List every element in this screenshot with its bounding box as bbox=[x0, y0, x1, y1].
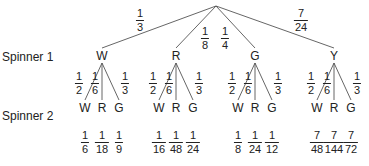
spinner2-prob-g-g: 13 bbox=[274, 71, 282, 96]
denominator: 9 bbox=[115, 144, 123, 155]
branch-line bbox=[102, 63, 119, 100]
numerator: 1 bbox=[244, 71, 252, 82]
joint-prob-y-r: 7144 bbox=[324, 130, 344, 155]
numerator: 1 bbox=[121, 71, 129, 82]
numerator: 7 bbox=[297, 8, 305, 19]
numerator: 1 bbox=[228, 71, 236, 82]
denominator: 3 bbox=[274, 85, 282, 96]
denominator: 6 bbox=[165, 85, 173, 96]
denominator: 2 bbox=[149, 85, 157, 96]
spinner2-prob-r-g: 13 bbox=[195, 71, 203, 96]
spinner2-prob-g-w: 12 bbox=[228, 71, 236, 96]
denominator: 8 bbox=[234, 144, 242, 155]
numerator: 1 bbox=[234, 130, 242, 141]
joint-prob-g-r: 124 bbox=[248, 130, 262, 155]
spinner2-node-y-w: W bbox=[311, 102, 322, 114]
denominator: 3 bbox=[353, 85, 361, 96]
branch-line bbox=[102, 6, 216, 48]
spinner2-node-r-g: G bbox=[188, 102, 197, 114]
numerator: 1 bbox=[251, 130, 259, 141]
numerator: 1 bbox=[189, 130, 197, 141]
numerator: 1 bbox=[172, 130, 180, 141]
denominator: 6 bbox=[323, 85, 331, 96]
denominator: 24 bbox=[186, 144, 200, 155]
numerator: 1 bbox=[274, 71, 282, 82]
spinner2-prob-w-r: 16 bbox=[91, 71, 99, 96]
branch-line bbox=[176, 6, 216, 48]
spinner2-node-w-w: W bbox=[79, 102, 90, 114]
numerator: 1 bbox=[221, 26, 229, 37]
spinner2-prob-w-w: 12 bbox=[75, 71, 83, 96]
spinner2-node-y-r: R bbox=[330, 102, 339, 114]
denominator: 48 bbox=[169, 144, 183, 155]
spinner2-node-r-r: R bbox=[172, 102, 181, 114]
spinner1-prob-y: 724 bbox=[294, 8, 308, 33]
denominator: 2 bbox=[228, 85, 236, 96]
numerator: 1 bbox=[91, 71, 99, 82]
denominator: 3 bbox=[121, 85, 129, 96]
branch-line bbox=[176, 63, 193, 100]
numerator: 1 bbox=[98, 130, 106, 141]
numerator: 1 bbox=[195, 71, 203, 82]
denominator: 3 bbox=[136, 22, 144, 33]
spinner1-label: Spinner 1 bbox=[2, 51, 53, 63]
denominator: 12 bbox=[265, 144, 279, 155]
numerator: 1 bbox=[75, 71, 83, 82]
spinner2-node-r-w: W bbox=[153, 102, 164, 114]
joint-prob-r-w: 116 bbox=[152, 130, 166, 155]
numerator: 1 bbox=[307, 71, 315, 82]
denominator: 144 bbox=[324, 144, 344, 155]
spinner2-prob-y-w: 12 bbox=[307, 71, 315, 96]
denominator: 2 bbox=[75, 85, 83, 96]
denominator: 8 bbox=[201, 40, 209, 51]
spinner2-node-w-g: G bbox=[114, 102, 123, 114]
numerator: 1 bbox=[149, 71, 157, 82]
joint-prob-w-r: 118 bbox=[95, 130, 109, 155]
joint-prob-r-g: 124 bbox=[186, 130, 200, 155]
spinner1-prob-w: 13 bbox=[136, 8, 144, 33]
spinner2-prob-g-r: 16 bbox=[244, 71, 252, 96]
spinner2-label: Spinner 2 bbox=[2, 110, 53, 122]
spinner1-node-y: Y bbox=[330, 50, 338, 62]
numerator: 1 bbox=[81, 130, 89, 141]
numerator: 1 bbox=[353, 71, 361, 82]
denominator: 72 bbox=[344, 144, 358, 155]
joint-prob-r-r: 148 bbox=[169, 130, 183, 155]
branch-line bbox=[216, 6, 334, 48]
spinner2-prob-y-g: 13 bbox=[353, 71, 361, 96]
denominator: 3 bbox=[195, 85, 203, 96]
branch-line bbox=[334, 63, 351, 100]
denominator: 48 bbox=[310, 144, 324, 155]
spinner1-node-w: W bbox=[96, 50, 107, 62]
spinner2-node-g-r: R bbox=[251, 102, 260, 114]
joint-prob-g-w: 18 bbox=[234, 130, 242, 155]
joint-prob-w-w: 16 bbox=[81, 130, 89, 155]
numerator: 1 bbox=[165, 71, 173, 82]
spinner2-prob-r-w: 12 bbox=[149, 71, 157, 96]
spinner2-prob-w-g: 13 bbox=[121, 71, 129, 96]
numerator: 7 bbox=[347, 130, 355, 141]
branch-line bbox=[255, 63, 272, 100]
denominator: 16 bbox=[152, 144, 166, 155]
denominator: 6 bbox=[91, 85, 99, 96]
spinner2-node-y-g: G bbox=[346, 102, 355, 114]
denominator: 18 bbox=[95, 144, 109, 155]
spinner1-node-g: G bbox=[250, 50, 259, 62]
denominator: 4 bbox=[221, 40, 229, 51]
denominator: 24 bbox=[294, 22, 308, 33]
spinner1-prob-g: 14 bbox=[221, 26, 229, 51]
spinner2-prob-r-r: 16 bbox=[165, 71, 173, 96]
numerator: 1 bbox=[115, 130, 123, 141]
spinner2-node-w-r: R bbox=[98, 102, 107, 114]
denominator: 2 bbox=[307, 85, 315, 96]
numerator: 7 bbox=[313, 130, 321, 141]
numerator: 7 bbox=[330, 130, 338, 141]
denominator: 6 bbox=[81, 144, 89, 155]
numerator: 1 bbox=[268, 130, 276, 141]
spinner1-prob-r: 18 bbox=[201, 26, 209, 51]
joint-prob-y-g: 772 bbox=[344, 130, 358, 155]
joint-prob-g-g: 112 bbox=[265, 130, 279, 155]
spinner2-node-g-g: G bbox=[267, 102, 276, 114]
denominator: 6 bbox=[244, 85, 252, 96]
spinner2-prob-y-r: 16 bbox=[323, 71, 331, 96]
